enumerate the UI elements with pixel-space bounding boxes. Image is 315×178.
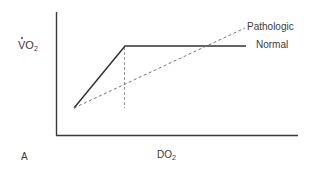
pathologic-curve xyxy=(74,28,245,108)
panel-label: A xyxy=(21,152,28,162)
legend-pathologic: Pathologic xyxy=(247,22,294,32)
y-axis-label-subscript: 2 xyxy=(34,45,38,52)
legend-normal: Normal xyxy=(256,40,288,50)
normal-curve xyxy=(74,46,246,108)
y-axis-label-main: VO xyxy=(18,40,34,51)
x-axis-label: DO2 xyxy=(157,150,176,161)
x-axis-label-subscript: 2 xyxy=(172,154,176,161)
x-axis-label-main: DO xyxy=(157,149,172,160)
y-axis-label: VO2 xyxy=(18,40,38,52)
